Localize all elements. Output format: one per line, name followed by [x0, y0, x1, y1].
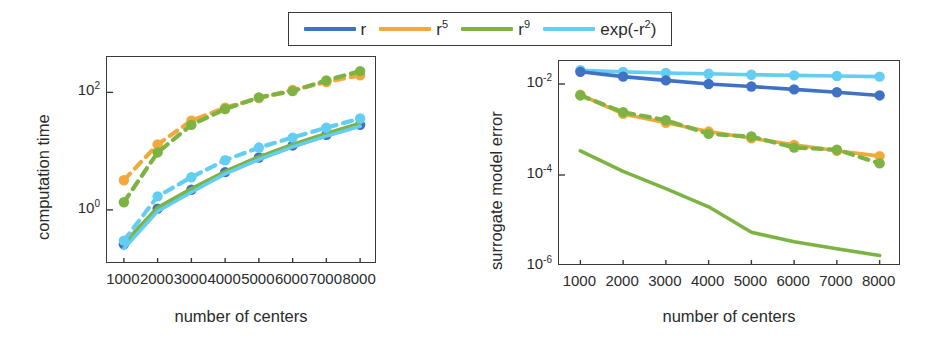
data-point-marker [703, 69, 713, 79]
data-point-marker [152, 147, 162, 157]
data-point-marker [874, 158, 884, 168]
x-axis-label-left: number of centers [106, 307, 376, 326]
legend-swatch-r [304, 27, 356, 32]
y-tick-label: 10-4 [502, 164, 552, 181]
data-point-marker [661, 115, 671, 125]
data-point-marker [703, 129, 713, 139]
y-tick-label: 102 [50, 81, 100, 98]
legend-swatch-expr2 [543, 27, 595, 32]
data-point-marker [119, 197, 129, 207]
y-tick-label: 10-2 [502, 73, 552, 90]
y-tick-label: 10-6 [502, 255, 552, 272]
data-point-marker [186, 172, 196, 182]
data-point-marker [575, 67, 585, 77]
legend-label-r5: r5 [436, 21, 448, 38]
y-axis-label-surrogate-model-error: surrogate model error [487, 111, 506, 270]
series-line-r9-solid [580, 151, 879, 256]
data-point-marker [746, 131, 756, 141]
data-point-marker [703, 79, 713, 89]
plot-area-surrogate-model-error [558, 60, 900, 265]
y-tick-label: 100 [50, 199, 100, 216]
x-axis-label-right: number of centers [558, 307, 900, 326]
x-tick-label: 8000 [331, 270, 387, 287]
y-axis-label-computation-time: computation time [34, 114, 53, 240]
data-point-marker [789, 142, 799, 152]
data-point-marker [254, 142, 264, 152]
data-point-marker [661, 75, 671, 85]
legend: rr5r9exp(-r2) [288, 12, 672, 46]
data-point-marker [746, 70, 756, 80]
legend-entry-r[interactable]: r [304, 21, 367, 38]
figure-canvas: rr5r9exp(-r2) computation time number of… [0, 0, 946, 345]
data-point-marker [832, 87, 842, 97]
data-point-marker [618, 107, 628, 117]
legend-swatch-r5 [379, 27, 431, 32]
data-point-marker [832, 71, 842, 81]
data-point-marker [152, 191, 162, 201]
data-point-marker [287, 132, 297, 142]
data-point-marker [789, 84, 799, 94]
data-point-marker [220, 104, 230, 114]
legend-entry-r5[interactable]: r5 [379, 21, 448, 38]
data-point-marker [746, 81, 756, 91]
data-point-marker [355, 113, 365, 123]
data-point-marker [832, 144, 842, 154]
data-point-marker [220, 155, 230, 165]
legend-label-r9: r9 [518, 21, 530, 38]
data-point-marker [119, 175, 129, 185]
data-point-marker [254, 92, 264, 102]
data-point-marker [575, 90, 585, 100]
data-point-marker [874, 71, 884, 81]
x-tick-label: 8000 [851, 272, 907, 289]
legend-entry-expr2[interactable]: exp(-r2) [543, 21, 656, 38]
legend-label-r: r [361, 21, 367, 38]
data-point-marker [789, 70, 799, 80]
data-point-marker [321, 75, 331, 85]
data-point-marker [874, 90, 884, 100]
data-point-marker [186, 120, 196, 130]
data-point-marker [618, 71, 628, 81]
legend-swatch-r9 [461, 27, 513, 32]
legend-label-expr2: exp(-r2) [600, 21, 656, 38]
data-point-marker [321, 123, 331, 133]
legend-entry-r9[interactable]: r9 [461, 21, 530, 38]
data-point-marker [355, 66, 365, 76]
data-point-marker [287, 86, 297, 96]
plot-area-computation-time [106, 56, 376, 263]
